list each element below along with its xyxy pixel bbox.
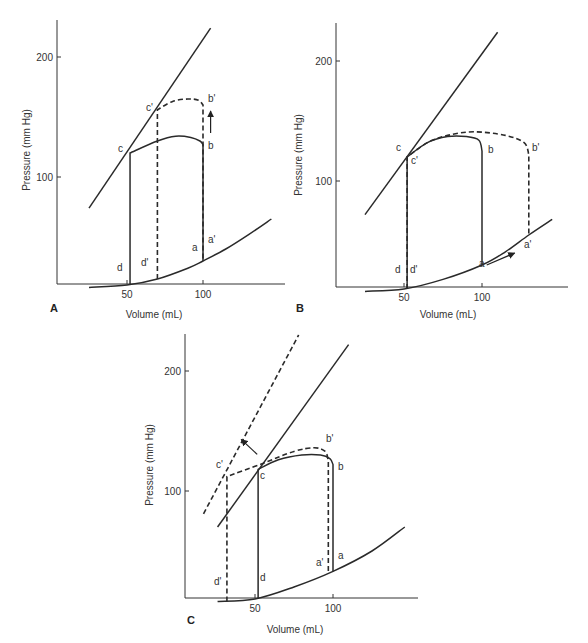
- x-axis-label: Volume (mL): [267, 624, 324, 635]
- axes: [336, 23, 568, 287]
- edpvr-curve: [218, 527, 405, 601]
- y-axis-label: Pressure (mm Hg): [293, 114, 304, 196]
- point-label: c: [260, 470, 265, 481]
- x-tick-label: 100: [474, 292, 491, 303]
- loop-increased-contractility-curve: [227, 448, 328, 602]
- point-label: b': [208, 93, 216, 104]
- y-tick-label: 200: [164, 366, 181, 377]
- point-label: d: [395, 264, 401, 275]
- point-label: c': [216, 459, 223, 470]
- panel-label: B: [296, 302, 304, 314]
- y-tick-label: 100: [36, 172, 53, 183]
- panel-c: 50100100200Volume (mL)Pressure (mm Hg)Cc…: [144, 334, 418, 635]
- loop-control-curve: [407, 136, 482, 289]
- point-label: d: [260, 572, 266, 583]
- point-label: c: [396, 142, 401, 153]
- arrow-up-left-icon: [241, 439, 257, 454]
- x-axis-label: Volume (mL): [126, 309, 183, 320]
- x-axis-label: Volume (mL): [420, 309, 477, 320]
- point-label: d: [117, 262, 123, 273]
- point-label: b: [208, 140, 214, 151]
- point-label: a': [208, 234, 216, 245]
- y-tick-label: 200: [36, 52, 53, 63]
- x-tick-label: 50: [398, 292, 410, 303]
- pressure-volume-figure: 50100100200Volume (mL)Pressure (mm Hg)Ac…: [0, 0, 588, 643]
- point-label: c': [146, 102, 153, 113]
- espvr-curve: [89, 28, 211, 208]
- loop-control-curve: [258, 454, 333, 599]
- y-tick-label: 100: [164, 486, 181, 497]
- point-label: d': [410, 264, 418, 275]
- axes: [57, 20, 285, 284]
- panel-label: C: [187, 614, 195, 626]
- espvr-increased-contractility-curve: [204, 335, 299, 514]
- point-label: d': [141, 257, 149, 268]
- point-label: a: [479, 258, 485, 269]
- panel-a: 50100100200Volume (mL)Pressure (mm Hg)Ac…: [21, 20, 285, 320]
- point-label: c': [411, 155, 418, 166]
- point-label: d': [214, 576, 222, 587]
- point-label: a: [192, 242, 198, 253]
- panel-b: 50100100200Volume (mL)Pressure (mm Hg)Bc…: [293, 23, 568, 320]
- point-label: a': [316, 557, 324, 568]
- x-tick-label: 100: [325, 603, 342, 614]
- point-label: c: [118, 143, 123, 154]
- x-tick-label: 50: [121, 289, 133, 300]
- edpvr-curve: [365, 219, 552, 291]
- edpvr-curve: [89, 219, 271, 287]
- point-label: a': [524, 239, 532, 250]
- point-label: b': [326, 433, 334, 444]
- y-tick-label: 100: [315, 176, 332, 187]
- point-label: a: [338, 550, 344, 561]
- x-tick-label: 50: [249, 603, 261, 614]
- loop-increased-preload-curve: [407, 132, 529, 289]
- panel-label: A: [50, 302, 58, 314]
- x-tick-label: 100: [195, 289, 212, 300]
- point-label: b': [532, 142, 540, 153]
- point-label: b: [338, 461, 344, 472]
- y-axis-label: Pressure (mm Hg): [21, 109, 32, 191]
- espvr-curve: [365, 32, 498, 214]
- y-tick-label: 200: [315, 56, 332, 67]
- y-axis-label: Pressure (mm Hg): [144, 424, 155, 506]
- point-label: b: [488, 144, 494, 155]
